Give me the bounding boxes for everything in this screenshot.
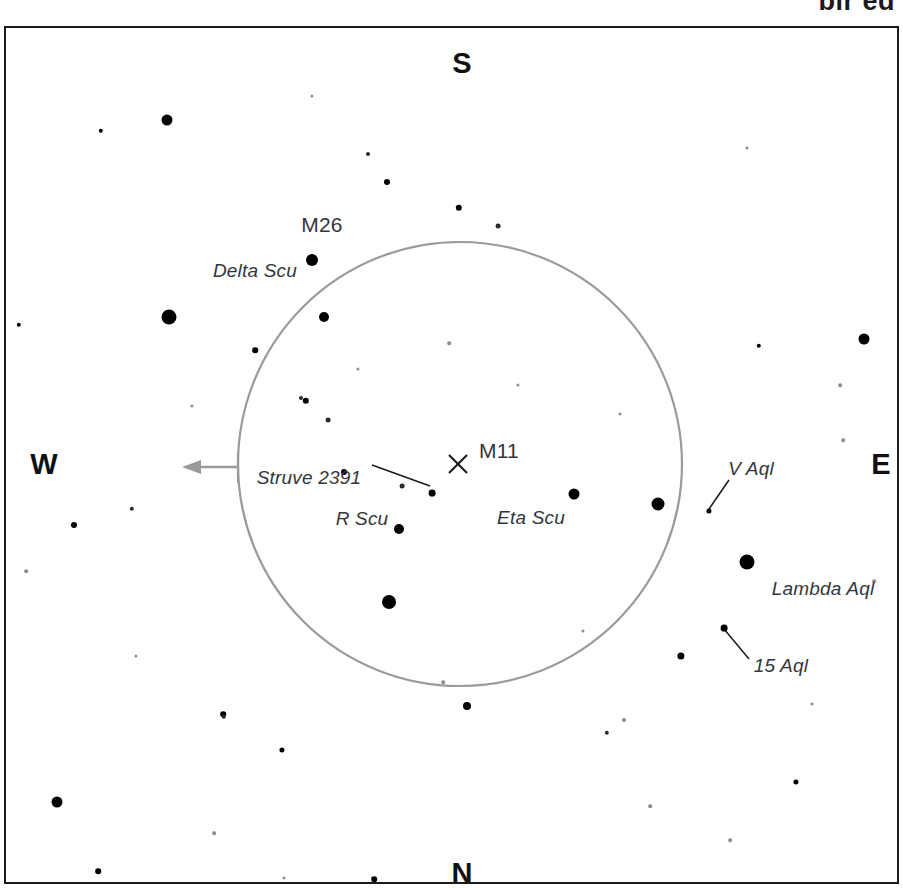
star-point	[394, 524, 404, 534]
cropped-header-text: bir ed	[818, 0, 895, 17]
header-strip: bir ed	[0, 0, 903, 22]
cardinal-e: E	[871, 448, 890, 481]
star-point	[130, 507, 134, 511]
star-point	[728, 838, 732, 842]
sky-field: M26Delta ScuStruve 2391M11R ScuEta ScuV …	[6, 28, 897, 882]
star-point	[319, 312, 329, 322]
star-point	[306, 254, 318, 266]
star-point	[516, 383, 519, 386]
star-point	[463, 702, 471, 710]
star-chart-page: bir ed M26Delta ScuStruve 2391M11R ScuEt…	[0, 0, 903, 888]
star-point	[252, 347, 258, 353]
v-aql-leader	[709, 480, 729, 509]
star-point	[652, 498, 665, 511]
star-point	[279, 747, 284, 752]
star-point	[366, 152, 370, 156]
star-point	[429, 490, 436, 497]
star-point	[810, 702, 813, 705]
star-point	[326, 418, 331, 423]
star-point	[382, 595, 396, 609]
star-point	[384, 179, 390, 185]
star-point	[618, 412, 621, 415]
star-point	[99, 129, 103, 133]
star-label-eta-scu: Eta Scu	[497, 507, 565, 529]
star-label-m11: M11	[479, 439, 519, 463]
star-point	[95, 868, 101, 874]
cardinal-s: S	[452, 47, 471, 80]
star-point	[162, 310, 177, 325]
star-point	[706, 508, 711, 513]
star-point	[581, 629, 584, 632]
chart-frame: M26Delta ScuStruve 2391M11R ScuEta ScuV …	[4, 26, 899, 884]
star-point	[303, 398, 309, 404]
star-point	[371, 876, 377, 882]
star-label-r-scu: R Scu	[336, 508, 389, 530]
star-point	[496, 224, 501, 229]
west-direction-arrow	[182, 452, 238, 483]
field-of-view-circle	[238, 242, 682, 686]
star-point	[24, 569, 28, 573]
star-point	[677, 652, 684, 659]
star-point	[757, 344, 761, 348]
star-label-lambda-aql: Lambda Aql	[772, 578, 875, 600]
star-point	[622, 718, 626, 722]
star-point	[605, 731, 609, 735]
star-point	[400, 484, 405, 489]
cardinal-n: N	[452, 857, 473, 885]
star-point	[441, 680, 445, 684]
star-point	[648, 804, 652, 808]
star-point	[838, 383, 842, 387]
star-point	[569, 489, 580, 500]
star-point	[222, 715, 226, 719]
star-label-v-aql: V Aql	[728, 458, 774, 480]
star-label-15-aql: 15 Aql	[754, 655, 808, 677]
star-label-struve-2391: Struve 2391	[257, 467, 362, 489]
star-label-delta-scu: Delta Scu	[213, 260, 297, 282]
star-point	[212, 831, 216, 835]
m11-center-x-marker	[449, 455, 467, 473]
star-point	[447, 341, 451, 345]
star-point	[721, 625, 728, 632]
star-point	[310, 94, 313, 97]
star-point	[282, 876, 285, 879]
star-point	[134, 654, 137, 657]
star-point	[17, 323, 21, 327]
arrow-head	[182, 460, 201, 474]
cardinal-w: W	[30, 448, 57, 481]
star-point	[841, 438, 845, 442]
star-point	[793, 779, 798, 784]
star-point	[356, 367, 359, 370]
star-point	[52, 797, 63, 808]
star-label-m26: M26	[301, 213, 342, 237]
star-point	[456, 205, 462, 211]
star-point	[162, 115, 173, 126]
star-point	[71, 522, 77, 528]
star-point	[745, 146, 748, 149]
field-of-view-overlay	[6, 28, 897, 882]
star-point	[859, 334, 870, 345]
15-aql-leader	[724, 629, 749, 659]
star-point	[190, 404, 193, 407]
star-point	[740, 555, 755, 570]
